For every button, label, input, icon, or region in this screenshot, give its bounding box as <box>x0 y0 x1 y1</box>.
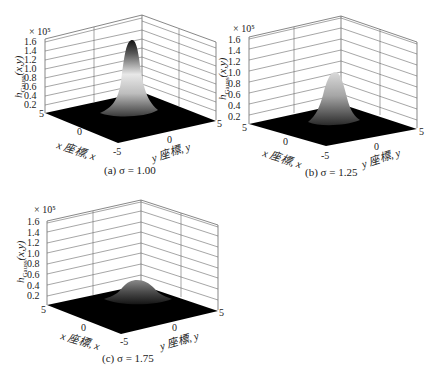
panel-b-zticks: × 10⁵ 1.6 1.4 1.2 1.0 0.8 0.6 0.4 0.2 5 <box>228 23 255 133</box>
svg-text:-5: -5 <box>120 336 128 347</box>
panel-c-caption: (c) σ = 1.75 <box>102 352 154 365</box>
panel-c: × 10⁵ 1.6 1.4 1.2 1.0 0.8 0.6 0.4 0.2 5 … <box>14 200 224 365</box>
svg-text:5: 5 <box>219 307 224 318</box>
svg-text:1.6: 1.6 <box>228 34 241 45</box>
panel-a-zticks: × 10⁵ 1.6 1.4 1.2 1.0 0.8 0.6 0.4 0.2 5 <box>24 26 51 119</box>
panel-b-xlabel: x 座標, x <box>260 146 303 170</box>
svg-text:× 10⁵: × 10⁵ <box>233 23 255 34</box>
svg-text:-5: -5 <box>321 150 329 161</box>
panel-c-xlabel: x 座標, x <box>58 329 101 352</box>
svg-text:5: 5 <box>217 118 222 129</box>
svg-text:1.2: 1.2 <box>27 237 40 248</box>
svg-text:-5: -5 <box>113 146 121 157</box>
panel-a-caption: (a) σ = 1.00 <box>104 164 156 177</box>
svg-text:0: 0 <box>167 134 172 145</box>
svg-text:1.0: 1.0 <box>228 67 241 78</box>
svg-text:1.2: 1.2 <box>228 56 241 67</box>
svg-text:0.2: 0.2 <box>228 111 241 122</box>
svg-text:1.4: 1.4 <box>228 45 241 56</box>
svg-text:1.6: 1.6 <box>27 216 40 227</box>
panel-c-zticks: × 10⁵ 1.6 1.4 1.2 1.0 0.8 0.6 0.4 0.2 5 <box>27 204 56 315</box>
panel-b: × 10⁵ 1.6 1.4 1.2 1.0 0.8 0.6 0.4 0.2 5 … <box>216 16 424 179</box>
svg-text:× 10⁵: × 10⁵ <box>34 204 56 215</box>
figure: × 10⁵ 1.6 1.4 1.2 1.0 0.8 0.6 0.4 0.2 5 … <box>0 0 434 370</box>
panel-c-ylabel: y 座標, y <box>157 329 200 352</box>
panel-b-ylabel: y 座標, y <box>359 146 402 170</box>
svg-text:0: 0 <box>374 141 379 152</box>
panel-b-peak <box>308 72 360 125</box>
svg-text:0.4: 0.4 <box>228 100 241 111</box>
panel-a: × 10⁵ 1.6 1.4 1.2 1.0 0.8 0.6 0.4 0.2 5 … <box>12 15 222 177</box>
svg-text:5: 5 <box>41 304 46 315</box>
svg-text:5: 5 <box>242 122 247 133</box>
svg-text:0: 0 <box>81 322 86 333</box>
panel-b-caption: (b) σ = 1.25 <box>305 166 358 179</box>
svg-text:0.2: 0.2 <box>24 99 37 110</box>
svg-text:0: 0 <box>77 126 82 137</box>
svg-text:5: 5 <box>39 108 44 119</box>
svg-text:0: 0 <box>283 136 288 147</box>
svg-text:5: 5 <box>419 126 424 137</box>
svg-text:0.2: 0.2 <box>27 290 40 301</box>
panel-a-xlabel: x 座標, x <box>54 138 97 162</box>
svg-text:0: 0 <box>172 322 177 333</box>
